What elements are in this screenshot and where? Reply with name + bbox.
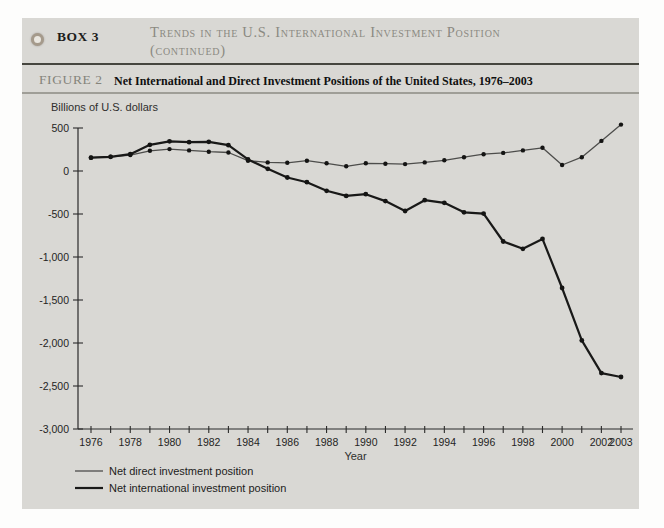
x-tick-label: 1990 (354, 436, 378, 448)
box-3-panel: BOX 3 Trends in the U.S. International I… (22, 18, 639, 509)
data-point-series-1 (108, 154, 113, 159)
x-tick-label: 1992 (393, 436, 417, 448)
data-point-series-0 (148, 149, 152, 153)
x-tick-label: 2000 (550, 436, 574, 448)
y-tick-label: -500 (48, 208, 69, 220)
data-point-series-1 (521, 246, 526, 251)
y-tick-label: -1,500 (39, 294, 69, 306)
data-point-series-1 (540, 237, 545, 242)
data-point-series-0 (501, 151, 505, 155)
data-point-series-1 (363, 192, 368, 197)
y-tick-label: 500 (51, 122, 69, 134)
data-point-series-1 (246, 157, 251, 162)
series-line-0 (91, 125, 621, 167)
x-tick-label: 1982 (197, 436, 221, 448)
data-point-series-0 (442, 158, 446, 162)
x-tick-label: 2003 (609, 436, 633, 448)
data-point-series-0 (207, 150, 211, 154)
data-point-series-1 (462, 210, 467, 215)
series-line-1 (91, 141, 621, 377)
x-tick-label: 1986 (276, 436, 300, 448)
y-tick-label: -3,000 (39, 423, 69, 435)
y-tick-label: -2,000 (39, 337, 69, 349)
x-tick-label: 1984 (236, 436, 260, 448)
data-point-series-1 (265, 166, 270, 171)
data-point-series-0 (540, 146, 544, 150)
data-point-series-1 (481, 211, 486, 216)
data-point-series-1 (89, 155, 94, 160)
data-point-series-0 (285, 161, 289, 165)
y-tick-label: -1,000 (39, 251, 69, 263)
data-point-series-0 (383, 162, 387, 166)
data-point-series-0 (462, 155, 466, 159)
data-point-series-0 (167, 147, 171, 151)
data-point-series-0 (344, 164, 348, 168)
data-point-series-1 (305, 180, 310, 185)
data-point-series-1 (167, 139, 172, 144)
data-point-series-1 (226, 143, 231, 148)
data-point-series-0 (580, 155, 584, 159)
x-tick-label: 1978 (119, 436, 143, 448)
data-point-series-1 (187, 140, 192, 145)
data-point-series-0 (266, 160, 270, 164)
data-point-series-0 (403, 162, 407, 166)
box-title-line1: Trends in the U.S. International Investm… (150, 24, 501, 42)
data-point-series-0 (305, 159, 309, 163)
x-tick-label: 1976 (79, 436, 103, 448)
legend-label-0: Net direct investment position (109, 465, 253, 477)
data-point-series-1 (148, 142, 153, 147)
data-point-series-0 (423, 160, 427, 164)
box-bullet-icon (31, 33, 44, 46)
header-divider (22, 63, 639, 65)
figure-label: FIGURE 2 (39, 72, 103, 88)
x-tick-label: 1996 (472, 436, 496, 448)
data-point-series-1 (579, 338, 584, 343)
data-point-series-1 (344, 194, 349, 199)
data-point-series-1 (442, 200, 447, 205)
box-title: Trends in the U.S. International Investm… (150, 24, 501, 59)
data-point-series-0 (364, 161, 368, 165)
x-tick-label: 1988 (315, 436, 339, 448)
x-tick-label: 1998 (511, 436, 535, 448)
y-tick-label: -2,500 (39, 380, 69, 392)
data-point-series-1 (619, 375, 624, 380)
data-point-series-0 (619, 122, 623, 126)
data-point-series-0 (521, 148, 525, 152)
data-point-series-1 (206, 139, 211, 144)
data-point-series-1 (285, 175, 290, 180)
data-point-series-1 (324, 188, 329, 193)
x-axis-title: Year (344, 450, 367, 462)
data-point-series-0 (324, 161, 328, 165)
data-point-series-1 (422, 198, 427, 203)
x-tick-label: 1980 (158, 436, 182, 448)
data-point-series-1 (403, 209, 408, 214)
y-axis-unit-label: Billions of U.S. dollars (51, 101, 158, 113)
box-title-line2: (continued) (150, 42, 501, 60)
scanned-page: BOX 3 Trends in the U.S. International I… (0, 0, 664, 528)
y-tick-label: 0 (63, 165, 69, 177)
data-point-series-1 (383, 199, 388, 204)
data-point-series-0 (187, 148, 191, 152)
chart-canvas: Billions of U.S. dollars5000-500-1,000-1… (22, 94, 639, 509)
data-point-series-0 (481, 152, 485, 156)
data-point-series-1 (501, 239, 506, 244)
box-label: BOX 3 (57, 29, 99, 45)
data-point-series-0 (599, 139, 603, 143)
data-point-series-1 (560, 286, 565, 291)
x-tick-label: 1994 (433, 436, 457, 448)
data-point-series-0 (560, 163, 564, 167)
figure-title: Net International and Direct Investment … (114, 74, 533, 89)
data-point-series-0 (226, 150, 230, 154)
data-point-series-1 (128, 152, 133, 157)
legend-label-1: Net international investment position (109, 482, 286, 494)
data-point-series-1 (599, 371, 604, 376)
